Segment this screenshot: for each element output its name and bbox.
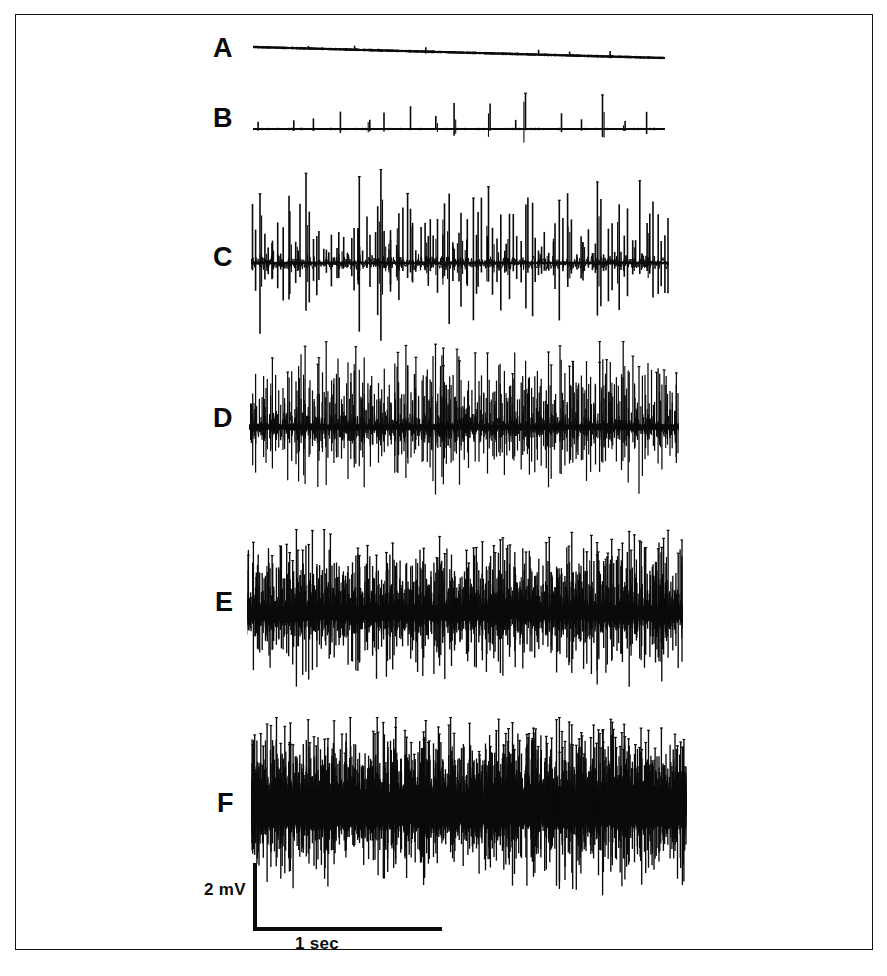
scale-bar-time-label: 1 sec	[295, 934, 339, 954]
trace-label-d: D	[213, 405, 233, 432]
emg-trace-e	[247, 529, 683, 697]
trace-label-c: C	[213, 244, 233, 271]
emg-trace-a	[253, 31, 665, 75]
emg-trace-d	[249, 341, 679, 509]
scale-bar-horizontal	[253, 927, 442, 931]
scale-bar-vertical	[253, 863, 257, 927]
trace-label-f: F	[217, 790, 234, 817]
emg-trace-f	[251, 717, 687, 897]
trace-label-b: B	[213, 105, 233, 132]
trace-label-a: A	[213, 35, 233, 62]
figure-border: A B C D E F 2 mV 1 sec	[15, 14, 873, 950]
emg-trace-b	[253, 89, 665, 151]
emg-trace-c	[251, 169, 669, 349]
trace-label-e: E	[215, 589, 234, 616]
scale-bar-voltage-label: 2 mV	[204, 880, 246, 900]
